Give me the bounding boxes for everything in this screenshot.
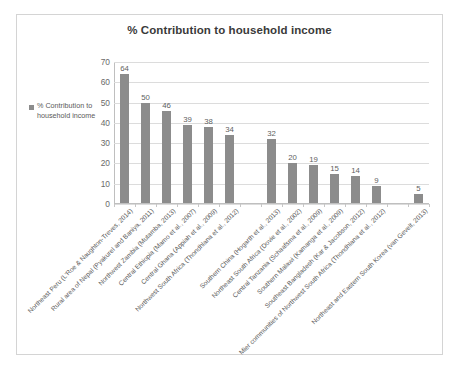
bar[interactable] xyxy=(267,139,277,204)
bar[interactable] xyxy=(288,163,298,204)
bar-value-label: 50 xyxy=(135,93,156,102)
gridline xyxy=(114,204,429,205)
chart-title: % Contribution to household income xyxy=(17,24,442,36)
bar-value-label: 34 xyxy=(219,125,240,134)
plot-area: 706050403020100 645046393834322019151495 xyxy=(114,62,429,204)
x-axis-category-label: Southeast Bangladesh (Kar & Jacobson, 20… xyxy=(263,207,365,309)
bar-slot: 34 xyxy=(219,62,240,204)
bar-slot: 15 xyxy=(324,62,345,204)
bar-value-label: 9 xyxy=(366,176,387,185)
bar-slot: 14 xyxy=(345,62,366,204)
bar[interactable] xyxy=(120,74,130,204)
bar[interactable] xyxy=(141,103,151,204)
y-axis-tick-label: 60 xyxy=(101,77,110,87)
bar-slot: 50 xyxy=(135,62,156,204)
y-axis-tick-label: 30 xyxy=(101,138,110,148)
bar-slot: 5 xyxy=(408,62,429,204)
legend-label-series-1: % Contribution to household income xyxy=(37,101,105,122)
bar-value-label: 14 xyxy=(345,166,366,175)
bar-value-label: 32 xyxy=(261,129,282,138)
y-axis-tick-label: 20 xyxy=(101,158,110,168)
x-axis-category-labels: Northeast Peru (L'Roe & Naughton-Treves,… xyxy=(114,207,429,357)
bar-slot: 64 xyxy=(114,62,135,204)
bar-slot: 38 xyxy=(198,62,219,204)
bar-slot: 20 xyxy=(282,62,303,204)
y-axis-tick-label: 10 xyxy=(101,179,110,189)
bar-slot: 39 xyxy=(177,62,198,204)
bar[interactable] xyxy=(225,135,235,204)
bar-series: 645046393834322019151495 xyxy=(114,62,429,204)
bar[interactable] xyxy=(309,165,319,204)
bar[interactable] xyxy=(372,186,382,204)
bar-slot: 19 xyxy=(303,62,324,204)
x-axis-tick xyxy=(429,204,430,207)
legend-swatch-series-1 xyxy=(29,105,34,110)
bar[interactable] xyxy=(183,125,193,204)
y-axis-tick-label: 50 xyxy=(101,98,110,108)
bar-slot: 46 xyxy=(156,62,177,204)
bar[interactable] xyxy=(351,176,361,204)
bar-value-label: 38 xyxy=(198,117,219,126)
bar[interactable] xyxy=(330,174,340,204)
bar-value-label: 5 xyxy=(408,184,429,193)
bar-slot: 9 xyxy=(366,62,387,204)
bar[interactable] xyxy=(162,111,172,204)
x-axis-line xyxy=(114,203,429,204)
bar-slot: 32 xyxy=(261,62,282,204)
bar-value-label: 15 xyxy=(324,164,345,173)
bar-slot-empty xyxy=(387,62,408,204)
bar-value-label: 64 xyxy=(114,64,135,73)
y-axis-tick-label: 40 xyxy=(101,118,110,128)
bar-value-label: 20 xyxy=(282,153,303,162)
chart-legend: % Contribution to household income xyxy=(29,101,105,122)
x-axis-category-label: Central Ethiopia (Mamo et al., 2007) xyxy=(117,207,197,287)
bar[interactable] xyxy=(204,127,214,204)
bar-slot-empty xyxy=(240,62,261,204)
y-axis-tick-label: 70 xyxy=(101,57,110,67)
bar-value-label: 46 xyxy=(156,101,177,110)
bar-value-label: 39 xyxy=(177,115,198,124)
y-axis-tick-label: 0 xyxy=(105,199,110,209)
bar-value-label: 19 xyxy=(303,155,324,164)
chart-frame: % Contribution to household income % Con… xyxy=(16,14,443,355)
